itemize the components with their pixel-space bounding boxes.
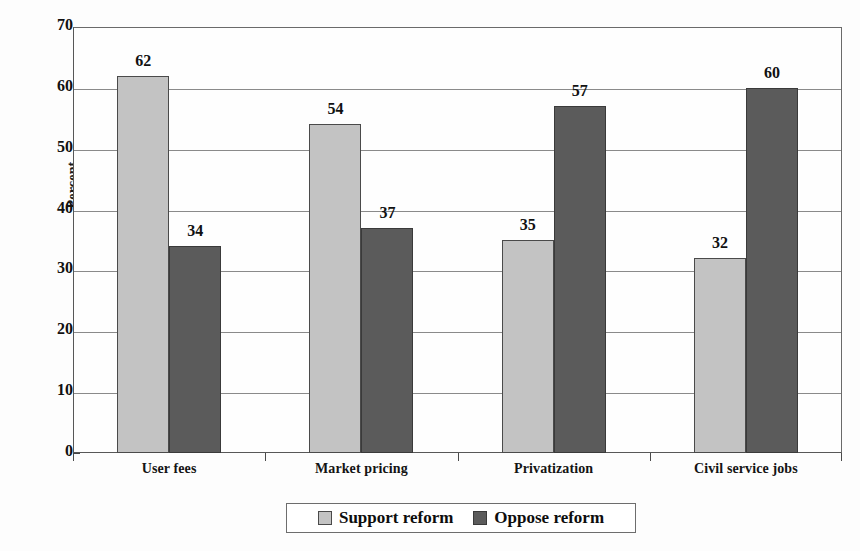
gridline [74,271,841,272]
x-tick-label: User fees [73,461,265,477]
plot-area [73,27,842,453]
x-axis-labels: User feesMarket pricingPrivatizationCivi… [73,461,842,487]
gridline [74,89,841,90]
legend-entry-oppose[interactable]: Oppose reform [473,508,604,528]
gridline [74,332,841,333]
x-tick-mark [841,453,842,461]
y-tick-label: 30 [33,259,73,277]
x-tick-mark [650,453,651,461]
y-tick-label: 70 [33,16,73,34]
x-tick-label: Civil service jobs [650,461,842,477]
y-tick-label: 60 [33,77,73,95]
support-swatch-icon [318,511,332,525]
y-tick-label: 10 [33,381,73,399]
x-tick-label: Market pricing [265,461,457,477]
y-tick-label: 20 [33,320,73,338]
y-tick-label: 50 [33,138,73,156]
gridline [74,393,841,394]
x-tick-mark [265,453,266,461]
gridline [74,211,841,212]
legend-label-support: Support reform [339,508,453,528]
bar-chart: Percent 010203040506070 6234543735573260… [0,0,860,551]
x-tick-mark [73,453,74,461]
legend-label-oppose: Oppose reform [494,508,604,528]
y-tick-label: 0 [33,442,73,460]
oppose-swatch-icon [473,511,487,525]
x-tick-label: Privatization [458,461,650,477]
gridline [74,150,841,151]
y-axis-ticks: 010203040506070 [20,27,73,453]
x-tick-mark [458,453,459,461]
legend-entry-support[interactable]: Support reform [318,508,453,528]
chart-legend: Support reform Oppose reform [286,503,636,533]
y-tick-label: 40 [33,199,73,217]
